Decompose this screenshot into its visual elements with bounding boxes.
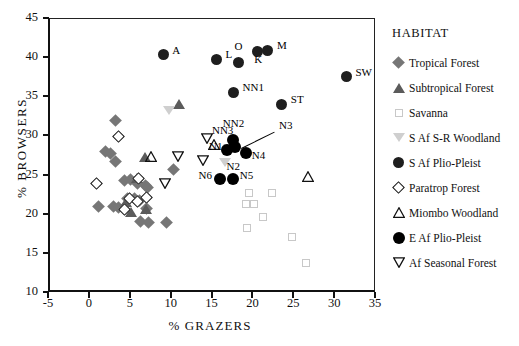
legend-item-e-af-plio-pleist[interactable]: E Af Plio-Pleist: [390, 225, 519, 250]
x-tick-label: 15: [192, 296, 232, 311]
point-label-n2: N2: [227, 160, 240, 172]
legend-marker: [390, 55, 407, 70]
legend-label: Af Seasonal Forest: [409, 257, 497, 269]
legend-label: E Af Plio-Pleist: [409, 232, 481, 244]
marker-filled-circle-black: [221, 144, 233, 156]
legend-label: Miombo Woodland: [409, 207, 498, 219]
marker-open-square: [288, 233, 296, 241]
marker-open-triangle-down: [393, 257, 405, 268]
legend-title: HABITAT: [392, 26, 519, 41]
point-label-n5: N5: [240, 169, 253, 181]
point-label-n4: N4: [252, 149, 265, 161]
y-tick: [43, 174, 49, 176]
legend-label: S Af Plio-Pleist: [409, 157, 481, 169]
point-label-m: M: [277, 39, 287, 51]
legend-label: Paratrop Forest: [409, 182, 480, 194]
marker-filled-circle-dark: [228, 87, 239, 98]
marker-open-triangle-down: [172, 151, 184, 162]
legend-item-s-af-s-r-woodland[interactable]: S Af S-R Woodland: [390, 125, 519, 150]
legend-item-s-af-plio-pleist[interactable]: S Af Plio-Pleist: [390, 150, 519, 175]
marker-filled-circle-dark: [262, 45, 273, 56]
marker-filled-circle-dark: [393, 157, 404, 168]
legend: HABITAT Tropical ForestSubtropical Fores…: [390, 26, 519, 275]
marker-open-square: [259, 213, 267, 221]
point-label-k: K: [254, 53, 262, 65]
marker-open-triangle-up: [393, 207, 405, 218]
marker-filled-diamond: [392, 56, 405, 69]
y-tick: [43, 95, 49, 97]
x-tick-label: 10: [151, 296, 191, 311]
marker-open-square: [243, 224, 251, 232]
marker-filled-circle-black: [227, 173, 239, 185]
marker-open-square: [395, 109, 403, 117]
marker-filled-triangle-down: [393, 133, 405, 142]
marker-open-triangle-down: [159, 178, 171, 189]
x-axis-title: % GRAZERS: [110, 318, 310, 334]
x-tick-label: 25: [273, 296, 313, 311]
marker-filled-triangle-up: [140, 204, 152, 214]
marker-filled-circle-dark: [158, 49, 169, 60]
legend-label: Tropical Forest: [409, 57, 479, 69]
marker-open-square: [302, 259, 310, 267]
legend-marker: [390, 80, 407, 95]
legend-marker: [390, 130, 407, 145]
scatter-plot-figure: 1015202530354045 -505101520253035 % GRAZ…: [0, 0, 519, 346]
point-label-o: O: [234, 40, 242, 52]
point-label-nn1: NN1: [243, 81, 264, 93]
point-label-st: ST: [291, 93, 304, 105]
point-label-a: A: [172, 44, 180, 56]
y-tick-label: 45: [14, 11, 38, 23]
y-tick: [43, 213, 49, 215]
y-tick-label: 40: [14, 50, 38, 62]
y-tick: [43, 56, 49, 58]
point-label-n1: N1: [209, 140, 222, 152]
x-tick-label: -5: [28, 296, 68, 311]
legend-label: Savanna: [409, 107, 448, 119]
marker-open-triangle-down: [197, 155, 209, 166]
marker-open-square: [268, 189, 276, 197]
point-label-n3: N3: [279, 119, 292, 131]
legend-marker: [390, 155, 407, 170]
legend-label: Subtropical Forest: [409, 82, 494, 94]
y-tick: [43, 252, 49, 254]
x-tick-label: 5: [110, 296, 150, 311]
legend-item-savanna[interactable]: Savanna: [390, 100, 519, 125]
legend-marker: [390, 255, 407, 270]
point-label-l: L: [225, 48, 232, 60]
x-tick-label: 0: [69, 296, 109, 311]
legend-marker: [390, 180, 407, 195]
y-tick: [43, 17, 49, 19]
y-tick-label: 15: [14, 246, 38, 258]
legend-rows: Tropical ForestSubtropical ForestSavanna…: [390, 50, 519, 275]
legend-item-paratrop-forest[interactable]: Paratrop Forest: [390, 175, 519, 200]
point-label-sw: SW: [355, 66, 372, 78]
y-axis-title: % BROWSERS: [14, 73, 30, 223]
marker-open-square: [245, 189, 253, 197]
legend-marker: [390, 205, 407, 220]
marker-filled-triangle-down: [163, 106, 175, 115]
marker-filled-circle-dark: [211, 54, 222, 65]
legend-label: S Af S-R Woodland: [409, 132, 500, 144]
legend-item-miombo-woodland[interactable]: Miombo Woodland: [390, 200, 519, 225]
x-tick-label: 20: [232, 296, 272, 311]
x-tick-label: 30: [314, 296, 354, 311]
legend-item-af-seasonal-forest[interactable]: Af Seasonal Forest: [390, 250, 519, 275]
y-tick: [43, 134, 49, 136]
marker-filled-circle-dark: [341, 71, 352, 82]
marker-filled-circle-black: [393, 232, 405, 244]
marker-filled-circle-dark: [233, 57, 244, 68]
marker-filled-circle-dark: [276, 99, 287, 110]
x-tick-label: 35: [355, 296, 395, 311]
legend-item-tropical-forest[interactable]: Tropical Forest: [390, 50, 519, 75]
legend-marker: [390, 230, 407, 245]
marker-open-triangle-up: [145, 151, 157, 162]
marker-open-diamond: [392, 181, 405, 194]
legend-item-subtropical-forest[interactable]: Subtropical Forest: [390, 75, 519, 100]
point-label-n6: N6: [198, 169, 211, 181]
marker-open-square: [242, 200, 250, 208]
legend-marker: [390, 105, 407, 120]
marker-filled-triangle-up: [393, 83, 405, 93]
point-label-nn3: NN3: [212, 124, 233, 136]
marker-open-square: [250, 200, 258, 208]
marker-open-triangle-up: [302, 171, 314, 182]
